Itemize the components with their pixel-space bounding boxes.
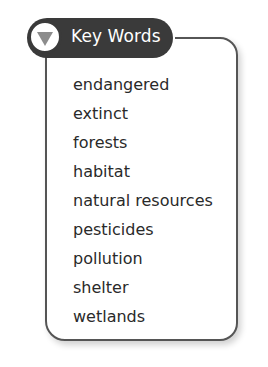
key-word-item: habitat xyxy=(73,157,213,186)
key-word-item: forests xyxy=(73,128,213,157)
header-title: Key Words xyxy=(71,26,161,46)
key-word-item: endangered xyxy=(73,70,213,99)
key-word-item: pollution xyxy=(73,244,213,273)
key-word-list: endangered extinct forests habitat natur… xyxy=(73,70,213,331)
key-words-header: Key Words xyxy=(27,18,173,58)
key-word-item: natural resources xyxy=(73,186,213,215)
key-word-item: pesticides xyxy=(73,215,213,244)
key-word-item: extinct xyxy=(73,99,213,128)
header-icon-circle xyxy=(28,20,62,54)
key-word-item: shelter xyxy=(73,273,213,302)
key-word-item: wetlands xyxy=(73,302,213,331)
triangle-down-icon xyxy=(37,32,53,46)
